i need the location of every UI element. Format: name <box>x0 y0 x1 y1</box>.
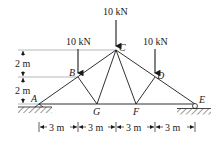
node-label-G: G <box>93 106 100 117</box>
member-BG <box>78 77 97 104</box>
horizontal-dim-label-1: 3 m <box>49 122 65 133</box>
vertical-dim-label-bottom: 2 m <box>15 85 31 96</box>
load-label-C: 10 kN <box>103 6 128 17</box>
horizontal-dim-label-3: 3 m <box>126 122 142 133</box>
horizontal-dim-label-2: 3 m <box>88 122 104 133</box>
node-label-C: C <box>119 42 126 53</box>
pin-support-A <box>18 104 52 113</box>
roller-support-E <box>177 104 211 115</box>
node-label-A: A <box>30 93 38 104</box>
node-label-D: D <box>156 70 165 81</box>
node-label-E: E <box>198 94 205 105</box>
vertical-dim-label-top: 2 m <box>15 58 31 69</box>
member-CF <box>116 50 136 104</box>
node-label-F: F <box>132 106 140 117</box>
member-DF <box>136 77 155 104</box>
member-CG <box>97 50 116 104</box>
load-label-B: 10 kN <box>66 36 91 47</box>
truss-diagram: 2 m 2 m 10 kN 10 kN 10 kN A B C D E G F <box>0 0 220 141</box>
load-label-D: 10 kN <box>143 36 168 47</box>
node-label-B: B <box>69 67 75 78</box>
horizontal-dim-label-4: 3 m <box>165 122 181 133</box>
